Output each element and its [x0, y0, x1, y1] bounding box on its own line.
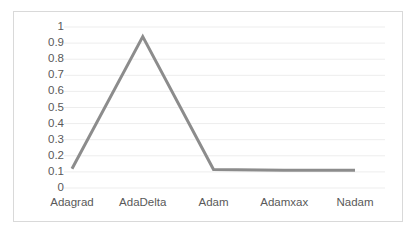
- x-axis-category-label: AdaDelta: [119, 197, 166, 209]
- x-axis-category-labels: AdagradAdaDeltaAdamAdamxaxNadam: [0, 0, 416, 236]
- x-axis-category-label: Adam: [198, 197, 228, 209]
- x-axis-category-label: Adagrad: [50, 197, 93, 209]
- x-axis-category-label: Adamxax: [260, 197, 308, 209]
- x-axis-category-label: Nadam: [336, 197, 373, 209]
